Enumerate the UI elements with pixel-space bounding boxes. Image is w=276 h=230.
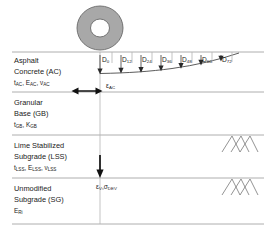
layer-label-ac-line2: Concrete (AC) [14,67,61,76]
strain-arrowhead-left [72,88,79,95]
pavement-structure-diagram: D0 D12 D24 D36 D48 D60 D72 Asphalt Concr… [0,0,276,230]
strain-arrowhead-right [96,88,103,95]
sensor-label-d36: D36 [162,56,172,64]
layer-lime-stabilized-subgrade: Lime Stabilized Subgrade (LSS) tLSS, ELS… [14,141,67,172]
vertical-stress-annotation: εV,σDEV [96,155,117,191]
layer-label-sg-line1: Unmodified [14,184,51,193]
sensor-label-d48: D48 [182,56,192,64]
soil-symbol-sg [222,179,258,195]
strain-label-ac: εAC [106,82,115,90]
layer-props-gb: tGB, KGB [14,121,37,129]
sensor-label-d0: D0 [102,56,110,64]
layer-unmodified-subgrade: Unmodified Subgrade (SG) ERi [14,184,64,215]
layer-granular-base: Granular Base (GB) tGB, KGB [14,98,49,129]
vertical-stress-label: εV,σDEV [96,183,117,191]
horizontal-strain-annotation: εAC [72,82,116,94]
layer-label-gb-line1: Granular [14,98,43,107]
layer-props-ac: tAC, EAC, νAC [14,79,50,87]
layer-label-sg-line2: Subgrade (SG) [14,195,64,204]
layer-label-lss-line1: Lime Stabilized [14,141,64,150]
vertical-stress-arrowhead [96,170,103,179]
layer-asphalt-concrete: Asphalt Concrete (AC) tAC, EAC, νAC [14,56,61,87]
layer-label-lss-line2: Subgrade (LSS) [14,152,67,161]
sensor-label-d12: D12 [122,56,132,64]
wheel-load-plate [77,6,123,50]
layer-props-lss: tLSS, ELSS, νLSS [14,164,56,172]
soil-symbol-lss [222,136,258,152]
sensor-label-d60: D60 [202,56,212,64]
sensor-label-d24: D24 [142,56,152,64]
wheel-inner-hole [91,19,110,37]
sensor-arrowhead-d48 [178,63,183,69]
layer-label-gb-line2: Base (GB) [14,109,49,118]
layer-props-sg: ERi [14,207,23,215]
layer-label-ac-line1: Asphalt [14,56,39,65]
